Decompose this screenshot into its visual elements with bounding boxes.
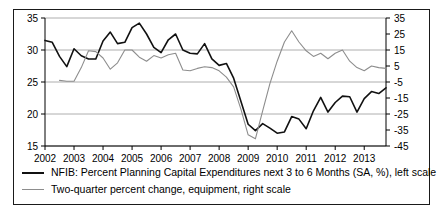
right-axis-tick-label: 15 <box>394 45 406 56</box>
legend-label-equipment: Two-quarter percent change, equipment, r… <box>51 183 291 196</box>
left-axis-tick-label: 20 <box>27 109 39 120</box>
x-axis-tick-label: 2002 <box>34 153 57 164</box>
series-line-nfib <box>45 23 386 133</box>
x-axis-ticks-group <box>45 146 364 150</box>
x-axis-tick-label: 2009 <box>237 153 260 164</box>
data-series-group <box>45 23 386 139</box>
left-axis-tick-label: 15 <box>27 141 39 152</box>
legend-item-nfib: NFIB: Percent Planning Capital Expenditu… <box>22 164 422 181</box>
right-axis-tick-label: -15 <box>394 93 409 104</box>
x-axis-tick-label: 2008 <box>208 153 231 164</box>
right-axis-tick-label: -25 <box>394 109 409 120</box>
right-axis-ticks-group <box>386 18 390 146</box>
line-chart: 1520253035-45-35-25-15-55152535200220032… <box>14 10 429 180</box>
tick-labels-group: 1520253035-45-35-25-15-55152535200220032… <box>27 13 409 164</box>
right-axis-tick-label: -45 <box>394 141 409 152</box>
chart-figure-panel: 1520253035-45-35-25-15-55152535200220032… <box>13 9 430 205</box>
right-axis-tick-label: 35 <box>394 13 406 24</box>
x-axis-tick-label: 2013 <box>353 153 376 164</box>
left-axis-tick-label: 30 <box>27 45 39 56</box>
left-axis-tick-label: 25 <box>27 77 39 88</box>
right-axis-tick-label: -35 <box>394 125 409 136</box>
x-axis-tick-label: 2010 <box>266 153 289 164</box>
right-axis-tick-label: 5 <box>394 61 400 72</box>
right-axis-tick-label: -5 <box>394 77 403 88</box>
gridlines-group <box>45 18 386 146</box>
x-axis-tick-label: 2003 <box>63 153 86 164</box>
x-axis-tick-label: 2007 <box>179 153 202 164</box>
left-axis-tick-label: 35 <box>27 13 39 24</box>
x-axis-tick-label: 2005 <box>121 153 144 164</box>
legend-label-nfib: NFIB: Percent Planning Capital Expenditu… <box>51 166 436 179</box>
x-axis-tick-label: 2011 <box>295 153 317 164</box>
legend-line-swatch-icon <box>22 172 44 174</box>
left-axis-ticks-group <box>41 18 45 146</box>
right-axis-tick-label: 25 <box>394 29 406 40</box>
x-axis-tick-label: 2004 <box>92 153 115 164</box>
legend-item-equipment: Two-quarter percent change, equipment, r… <box>22 181 422 198</box>
x-axis-tick-label: 2006 <box>150 153 173 164</box>
legend-line-swatch-icon <box>22 189 44 190</box>
chart-legend: NFIB: Percent Planning Capital Expenditu… <box>22 164 422 198</box>
x-axis-tick-label: 2012 <box>324 153 347 164</box>
series-line-equipment <box>60 31 386 139</box>
